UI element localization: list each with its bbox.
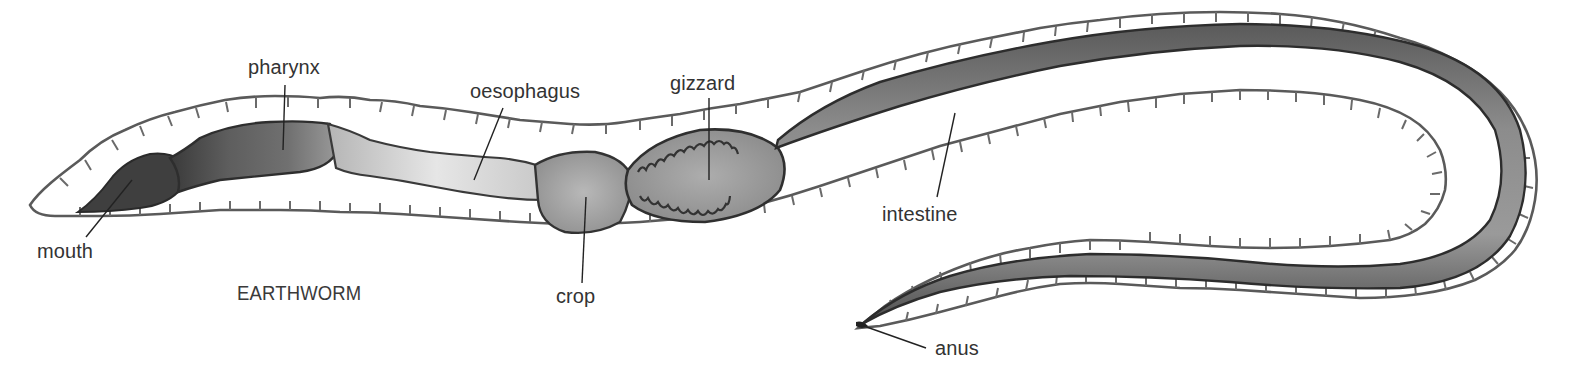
label-pharynx: pharynx: [248, 56, 320, 79]
label-intestine: intestine: [882, 203, 957, 226]
label-oesophagus: oesophagus: [470, 80, 580, 103]
crop-region: [535, 152, 632, 233]
earthworm-diagram: [0, 0, 1590, 375]
label-anus: anus: [935, 337, 979, 360]
anus-leader: [861, 325, 926, 348]
label-crop: crop: [556, 285, 595, 308]
diagram-title: EARTHWORM: [237, 281, 361, 305]
label-mouth: mouth: [37, 240, 93, 263]
label-gizzard: gizzard: [670, 72, 735, 95]
